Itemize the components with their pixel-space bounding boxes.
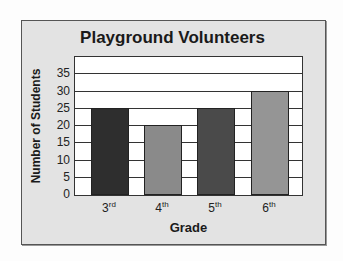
x-tick-label: 4th: [142, 200, 182, 215]
x-tick-label: 3rd: [89, 200, 129, 215]
y-tick-label: 0: [48, 187, 70, 201]
y-tick-label: 5: [48, 170, 70, 184]
bar-3rd: [91, 108, 129, 195]
x-axis-label: Grade: [74, 220, 303, 235]
bar-5th: [197, 108, 235, 195]
y-axis-label: Number of Students: [29, 69, 43, 184]
plot-area: [74, 56, 303, 196]
y-tick-label: 10: [48, 153, 70, 167]
y-tick-label: 15: [48, 135, 70, 149]
y-tick-label: 30: [48, 84, 70, 98]
y-tick-label: 35: [48, 66, 70, 80]
x-tick-label: 6th: [249, 200, 289, 215]
bar-4th: [144, 125, 182, 195]
chart-title: Playground Volunteers: [21, 28, 324, 48]
gridline: [75, 73, 302, 74]
bar-6th: [251, 91, 289, 196]
y-tick-label: 20: [48, 118, 70, 132]
x-tick-label: 5th: [195, 200, 235, 215]
y-tick-label: 25: [48, 101, 70, 115]
